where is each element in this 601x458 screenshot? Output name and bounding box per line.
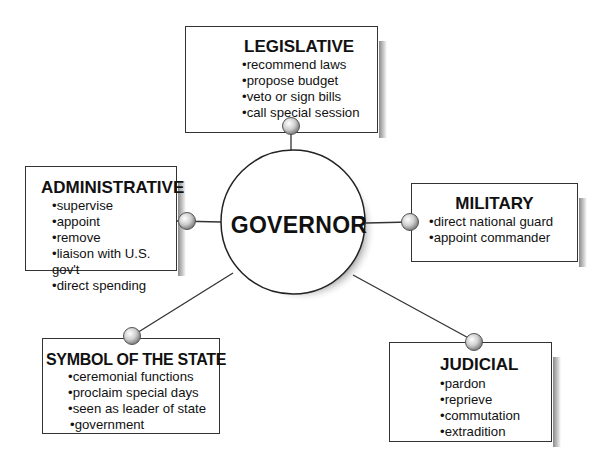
governor-label: GOVERNOR [206, 212, 392, 239]
military-list: direct national guard appoint commander [429, 214, 553, 246]
list-item: call special session [242, 105, 360, 121]
box-shadow [553, 357, 561, 447]
judicial-box: JUDICIAL pardon reprieve commutation ext… [389, 342, 552, 442]
legislative-list: recommend laws propose budget veto or si… [242, 57, 360, 121]
list-item: extradition [440, 424, 520, 440]
list-item: proclaim special days [68, 385, 206, 401]
administrative-title: ADMINISTRATIVE [41, 178, 184, 197]
list-item: commutation [440, 408, 520, 424]
list-item: reprieve [440, 392, 520, 408]
list-item: ceremonial functions [68, 369, 206, 385]
legislative-title: LEGISLATIVE [244, 37, 354, 56]
military-title: MILITARY [412, 194, 577, 213]
legislative-box: LEGISLATIVE recommend laws propose budge… [185, 26, 378, 133]
list-item: veto or sign bills [242, 89, 360, 105]
box-shadow [379, 41, 387, 138]
administrative-box: ADMINISTRATIVE supervise appoint remove … [25, 166, 177, 271]
symbol-box: SYMBOL OF THE STATE ceremonial functions… [42, 338, 220, 434]
list-item: remove [52, 230, 176, 246]
list-item: seen as leader of state [68, 401, 206, 417]
judicial-title: JUDICIAL [440, 355, 518, 374]
list-item-continuation: government [68, 417, 206, 433]
list-item: propose budget [242, 73, 360, 89]
list-item: liaison with U.S. gov't [52, 246, 176, 278]
list-item: direct spending [52, 278, 176, 294]
connector-judicial [353, 275, 474, 341]
list-item: recommend laws [242, 57, 360, 73]
symbol-list: ceremonial functions proclaim special da… [68, 369, 206, 433]
symbol-title: SYMBOL OF THE STATE [46, 350, 226, 369]
list-item: pardon [440, 376, 520, 392]
list-item: appoint commander [429, 230, 553, 246]
box-shadow [579, 198, 587, 267]
list-item: direct national guard [429, 214, 553, 230]
list-item: supervise [52, 198, 176, 214]
judicial-list: pardon reprieve commutation extradition [440, 376, 520, 440]
administrative-list: supervise appoint remove liaison with U.… [52, 198, 176, 294]
governor-roles-diagram: LEGISLATIVE recommend laws propose budge… [0, 0, 601, 458]
military-box: MILITARY direct national guard appoint c… [411, 183, 578, 262]
list-item: appoint [52, 214, 176, 230]
